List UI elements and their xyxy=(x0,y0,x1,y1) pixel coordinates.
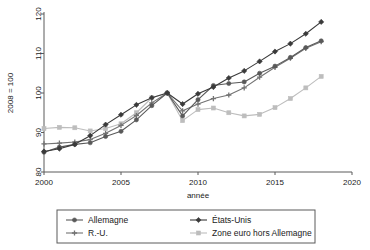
y-tick-label: 120 xyxy=(34,7,43,21)
data-point-marker xyxy=(257,59,262,64)
x-tick-label: 2005 xyxy=(112,178,130,187)
series-line xyxy=(44,41,321,152)
data-point-marker xyxy=(319,74,323,78)
data-point-marker xyxy=(73,126,77,130)
data-point-marker xyxy=(288,55,292,59)
y-tick-label: 80 xyxy=(34,167,43,176)
data-point-marker xyxy=(242,114,246,118)
legend-label: Allemagne xyxy=(88,215,128,225)
data-point-marker xyxy=(181,119,185,123)
data-point-marker xyxy=(88,141,92,145)
x-tick-label: 2000 xyxy=(35,178,53,187)
x-tick-label: 2015 xyxy=(266,178,284,187)
data-point-marker xyxy=(226,75,231,80)
data-point-marker xyxy=(304,86,308,90)
y-tick-label: 110 xyxy=(34,47,43,60)
series-allemagne xyxy=(42,39,323,155)
y-tick-label: 100 xyxy=(34,86,43,100)
data-point-marker xyxy=(304,45,308,49)
data-point-marker xyxy=(134,118,138,122)
data-point-marker xyxy=(319,39,323,43)
data-point-marker xyxy=(227,111,231,115)
data-point-marker xyxy=(211,106,215,110)
chart-figure: 809010011012020002005201020152020année20… xyxy=(0,0,370,250)
data-point-marker xyxy=(119,129,123,133)
y-axis-title: 2008 = 100 xyxy=(6,72,15,113)
y-tick-label: 90 xyxy=(34,128,43,137)
data-point-marker xyxy=(242,68,247,73)
data-point-marker xyxy=(242,80,246,84)
data-point-marker xyxy=(57,125,61,129)
data-point-marker xyxy=(258,71,262,75)
data-point-marker xyxy=(150,104,154,108)
data-point-marker xyxy=(88,129,92,133)
data-point-marker xyxy=(104,134,108,138)
data-point-marker xyxy=(41,141,46,146)
data-point-marker xyxy=(134,102,139,107)
data-point-marker xyxy=(196,98,200,102)
legend-label: R.-U. xyxy=(88,228,108,238)
data-point-marker xyxy=(288,41,293,46)
data-point-marker xyxy=(273,106,277,110)
data-point-marker xyxy=(273,64,277,68)
legend-label: Zone euro hors Allemagne xyxy=(212,228,312,238)
series-tats-unis xyxy=(41,19,323,154)
x-tick-label: 2020 xyxy=(343,178,361,187)
series-line xyxy=(44,22,321,152)
x-axis-title: année xyxy=(187,191,210,200)
data-point-marker xyxy=(72,218,76,222)
legend-label: États-Unis xyxy=(212,215,251,225)
data-point-marker xyxy=(288,97,292,101)
data-point-marker xyxy=(211,96,216,101)
series-r-u xyxy=(41,39,323,147)
data-point-marker xyxy=(258,112,262,116)
data-point-marker xyxy=(227,81,231,85)
data-point-marker xyxy=(197,231,201,235)
line-chart: 809010011012020002005201020152020année20… xyxy=(0,0,370,250)
series-line xyxy=(44,42,321,144)
data-point-marker xyxy=(181,114,185,118)
data-point-marker xyxy=(42,127,46,131)
x-tick-label: 2010 xyxy=(189,178,207,187)
data-point-marker xyxy=(196,108,200,112)
data-point-marker xyxy=(226,92,231,97)
